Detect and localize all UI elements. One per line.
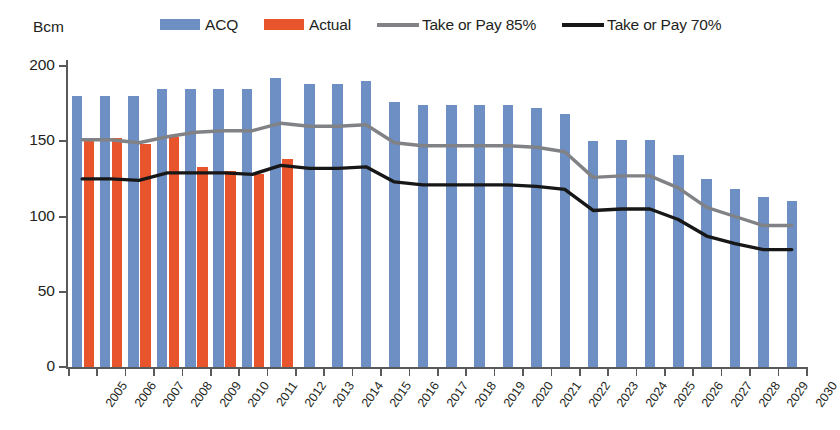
bar-acq-2016[interactable] xyxy=(389,102,400,367)
legend-item-take-or-pay-70[interactable]: Take or Pay 70% xyxy=(562,17,721,33)
x-axis-tick-label: 2030 xyxy=(813,379,840,410)
y-axis-tick-label: 0 xyxy=(10,357,55,375)
x-axis-tick-label: 2008 xyxy=(188,379,215,410)
bar-acq-2022[interactable] xyxy=(560,114,571,367)
bar-acq-2011[interactable] xyxy=(242,89,253,367)
x-axis-tick-label: 2017 xyxy=(444,379,471,410)
x-axis-tick xyxy=(465,368,467,376)
legend-label: Take or Pay 70% xyxy=(607,17,721,33)
x-axis-tick-label: 2014 xyxy=(359,379,386,410)
bar-acq-2025[interactable] xyxy=(645,140,656,367)
x-axis-tick-label: 2015 xyxy=(387,379,414,410)
x-axis-tick-label: 2021 xyxy=(557,379,584,410)
x-axis-tick-label: 2027 xyxy=(728,379,755,410)
legend-line-icon xyxy=(377,23,419,27)
y-axis-tick xyxy=(59,140,68,142)
x-axis-tick-label: 2013 xyxy=(330,379,357,410)
x-axis-tick-label: 2011 xyxy=(273,379,300,409)
legend-swatch-icon xyxy=(160,19,200,30)
bar-acq-2009[interactable] xyxy=(185,89,196,367)
x-axis-tick xyxy=(182,368,184,376)
y-axis-tick xyxy=(59,291,68,293)
x-axis-tick xyxy=(607,368,609,376)
x-axis-tick xyxy=(636,368,638,376)
bar-acq-2021[interactable] xyxy=(531,108,542,367)
bar-acq-2017[interactable] xyxy=(418,105,429,367)
x-axis-tick xyxy=(295,368,297,376)
x-axis-tick xyxy=(68,368,70,376)
legend-item-acq[interactable]: ACQ xyxy=(160,17,238,33)
bar-acq-2008[interactable] xyxy=(157,89,168,367)
x-axis-tick-label: 2024 xyxy=(642,379,669,410)
y-axis-line xyxy=(66,60,68,369)
bar-acq-2012[interactable] xyxy=(270,78,281,367)
y-axis-tick xyxy=(59,216,68,218)
x-axis-tick xyxy=(806,368,808,376)
x-axis-tick xyxy=(323,368,325,376)
bar-actual-2006[interactable] xyxy=(112,138,123,367)
x-axis-tick xyxy=(579,368,581,376)
x-axis-tick xyxy=(721,368,723,376)
x-axis-tick-label: 2025 xyxy=(671,379,698,410)
bar-actual-2007[interactable] xyxy=(140,144,151,367)
x-axis-tick-label: 2019 xyxy=(500,379,527,410)
legend-label: ACQ xyxy=(205,17,238,33)
x-axis-tick xyxy=(494,368,496,376)
x-axis-tick-label: 2006 xyxy=(131,379,158,410)
bar-acq-2019[interactable] xyxy=(474,105,485,367)
x-axis-tick xyxy=(692,368,694,376)
x-axis-tick-label: 2016 xyxy=(415,379,442,410)
chart-legend: ACQActualTake or Pay 85%Take or Pay 70% xyxy=(160,17,747,33)
bar-actual-2008[interactable] xyxy=(169,137,180,367)
legend-item-actual[interactable]: Actual xyxy=(264,17,351,33)
x-axis-tick xyxy=(96,368,98,376)
x-axis-tick xyxy=(267,368,269,376)
bar-acq-2023[interactable] xyxy=(588,141,599,367)
x-axis-tick xyxy=(210,368,212,376)
bar-acq-2026[interactable] xyxy=(673,155,684,367)
x-axis-tick-label: 2010 xyxy=(245,379,272,410)
bar-acq-2018[interactable] xyxy=(446,105,457,367)
x-axis-tick-label: 2026 xyxy=(699,379,726,410)
legend-label: Take or Pay 85% xyxy=(422,17,536,33)
bar-acq-2015[interactable] xyxy=(361,81,372,367)
bar-acq-2030[interactable] xyxy=(787,201,798,367)
bar-acq-2007[interactable] xyxy=(128,96,139,367)
bar-actual-2009[interactable] xyxy=(197,167,208,367)
x-axis-tick-label: 2018 xyxy=(472,379,499,410)
x-axis-tick-label: 2007 xyxy=(160,379,187,410)
bar-acq-2028[interactable] xyxy=(730,189,741,367)
bar-actual-2010[interactable] xyxy=(225,171,236,367)
bar-acq-2006[interactable] xyxy=(100,96,111,367)
bar-acq-2014[interactable] xyxy=(332,84,343,367)
bar-acq-2010[interactable] xyxy=(213,89,224,367)
x-axis-tick-label: 2009 xyxy=(217,379,244,410)
legend-item-take-or-pay-85[interactable]: Take or Pay 85% xyxy=(377,17,536,33)
bar-acq-2005[interactable] xyxy=(72,96,83,367)
x-axis-tick-label: 2005 xyxy=(103,379,130,410)
x-axis-tick-label: 2020 xyxy=(529,379,556,410)
bar-acq-2020[interactable] xyxy=(503,105,514,367)
x-axis-tick-label: 2012 xyxy=(302,379,329,410)
legend-swatch-icon xyxy=(264,19,304,30)
x-axis-tick xyxy=(125,368,127,376)
bar-actual-2005[interactable] xyxy=(84,138,95,367)
x-axis-tick xyxy=(749,368,751,376)
legend-line-icon xyxy=(562,23,604,27)
x-axis-tick-label: 2023 xyxy=(614,379,641,410)
x-axis-tick xyxy=(352,368,354,376)
x-axis-tick-label: 2028 xyxy=(756,379,783,410)
legend-label: Actual xyxy=(309,17,351,33)
bar-actual-2011[interactable] xyxy=(254,174,265,367)
x-axis-tick xyxy=(664,368,666,376)
x-axis-tick xyxy=(238,368,240,376)
y-axis-tick-label: 50 xyxy=(10,282,55,300)
bar-acq-2027[interactable] xyxy=(701,179,712,367)
bar-acq-2013[interactable] xyxy=(304,84,315,367)
bar-acq-2024[interactable] xyxy=(616,140,627,367)
bar-acq-2029[interactable] xyxy=(758,197,769,367)
x-axis-tick xyxy=(437,368,439,376)
bar-actual-2012[interactable] xyxy=(282,159,293,367)
